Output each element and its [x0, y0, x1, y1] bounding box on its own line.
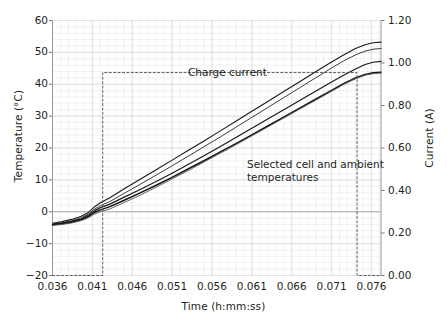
annotation-charge-current: Charge current: [188, 66, 267, 79]
y-right-tick-0: 0.00: [388, 269, 432, 281]
y-left-tick-2: 0: [8, 205, 48, 217]
y-right-tick-1: 0.20: [388, 226, 432, 238]
x-axis-title: Time (h:mm:ss): [0, 300, 447, 312]
y-right-tick-5: 1.00: [388, 56, 432, 68]
y-axis-right-title: Current (A): [423, 78, 435, 198]
y-left-tick-7: 50: [8, 45, 48, 57]
y-left-tick-0: −20: [8, 269, 48, 281]
x-tick-8: 0.076: [348, 280, 394, 292]
y-left-tick-1: −10: [8, 237, 48, 249]
annotation-selected-temperatures: Selected cell and ambient temperatures: [247, 158, 384, 183]
y-left-tick-8: 60: [8, 14, 48, 26]
chart-figure: −20−100102030405060 0.000.200.400.600.80…: [0, 0, 447, 326]
y-right-tick-6: 1.20: [388, 14, 432, 26]
y-axis-left-title: Temperature (°C): [12, 76, 24, 196]
